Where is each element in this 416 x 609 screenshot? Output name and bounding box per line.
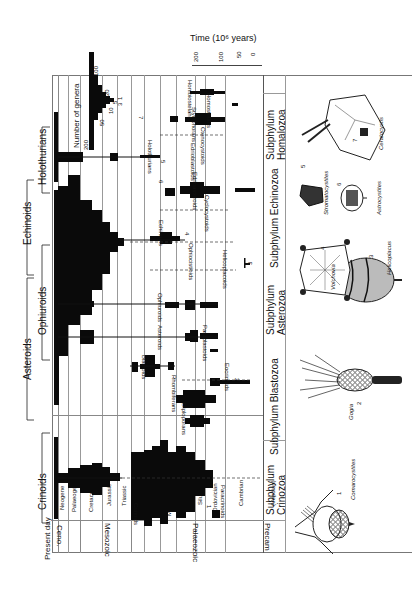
illustration-label-astrocystites: Astrocystites [376, 181, 382, 215]
illustration-comarocystites [293, 482, 353, 582]
illustration-label-ceratocystis: Ceratocystis [378, 117, 384, 150]
illustration-label-comarocystites: Comarocystites [350, 459, 356, 500]
illustration-number-1: 1 [336, 492, 342, 495]
illustration-astrocystites [338, 182, 368, 217]
subphylum-crinozoa: Subphylum Crinozoa [265, 455, 287, 515]
marker-7: 7 [138, 116, 144, 119]
taxon-echinoids: Echinoids [158, 220, 164, 246]
taxon-asteroids: Asteroids [157, 325, 163, 350]
taxon-eocrinoids: Eocrinoids [224, 363, 230, 391]
taxon-ctenocystoids: Ctenocystoids [200, 127, 206, 165]
taxon-ophiocistioids: Ophiocistioids [188, 243, 194, 280]
taxon-paracrinoids: Paracrinoids [220, 485, 226, 518]
illustration-number-2: 2 [356, 402, 362, 405]
taxon-homostelans: Homostelans [206, 93, 212, 128]
taxon-helicoplacoids: Helicoplacoids [222, 250, 228, 289]
illustration-number-7: 7 [352, 139, 358, 142]
taxon-ophiuroids: Ophiuroids [157, 293, 163, 322]
marker-3: 3 [247, 262, 253, 265]
marker-4: 4 [184, 232, 190, 235]
marker-6: 6 [158, 180, 164, 183]
taxon-parablastoids: Parablastoids [202, 325, 208, 361]
illustration-volchovia [295, 230, 355, 310]
illustration-gogia [300, 350, 410, 410]
taxon-blastoids: Blastoids [141, 355, 147, 379]
taxon-rhombiferans: Rhombiferans [171, 375, 177, 412]
marker-1: 1 [206, 505, 212, 508]
sep-precam-crinozoa [263, 520, 285, 521]
illustration-number-6: 6 [336, 183, 342, 186]
illustration-number-3: 3 [368, 255, 374, 258]
subphylum-asterozoa: Subphylum Asterozoa [265, 275, 287, 335]
subphylum-homalozoa: Subphylum Homalozoa [265, 100, 287, 160]
taxon-holothurians: Holothurians [147, 140, 153, 174]
taxon-edrioblastoids: Edrioblastoids [190, 143, 196, 181]
illustration-label-stromatocystites: Stromatocystites [323, 171, 329, 215]
taxon-crinoids: Crinoids [133, 503, 139, 525]
illustration-ceratocystis [300, 90, 390, 170]
illustration-label-gogia: Gogia [348, 404, 354, 420]
taxon-diploporans: Diploporans [181, 403, 187, 435]
marker-5: 5 [160, 160, 166, 163]
sep-crinozoa-blastozoa [263, 440, 285, 441]
illustration-label-helicoplacus: Helicoplacus [386, 241, 392, 275]
taxon-cyclocystoids: Cyclocystoids [204, 195, 210, 232]
illustration-number-4: 4 [320, 247, 326, 250]
illustration-label-volchovia: Volchovia [330, 264, 336, 290]
sep-asterozoa-echinozoa [263, 93, 285, 94]
taxon-homoiostelans: Homoiostelans [187, 80, 193, 120]
subphylum-echinozoa: Subphylum Echinozoa [269, 168, 280, 268]
marker-2: 2 [234, 378, 240, 381]
